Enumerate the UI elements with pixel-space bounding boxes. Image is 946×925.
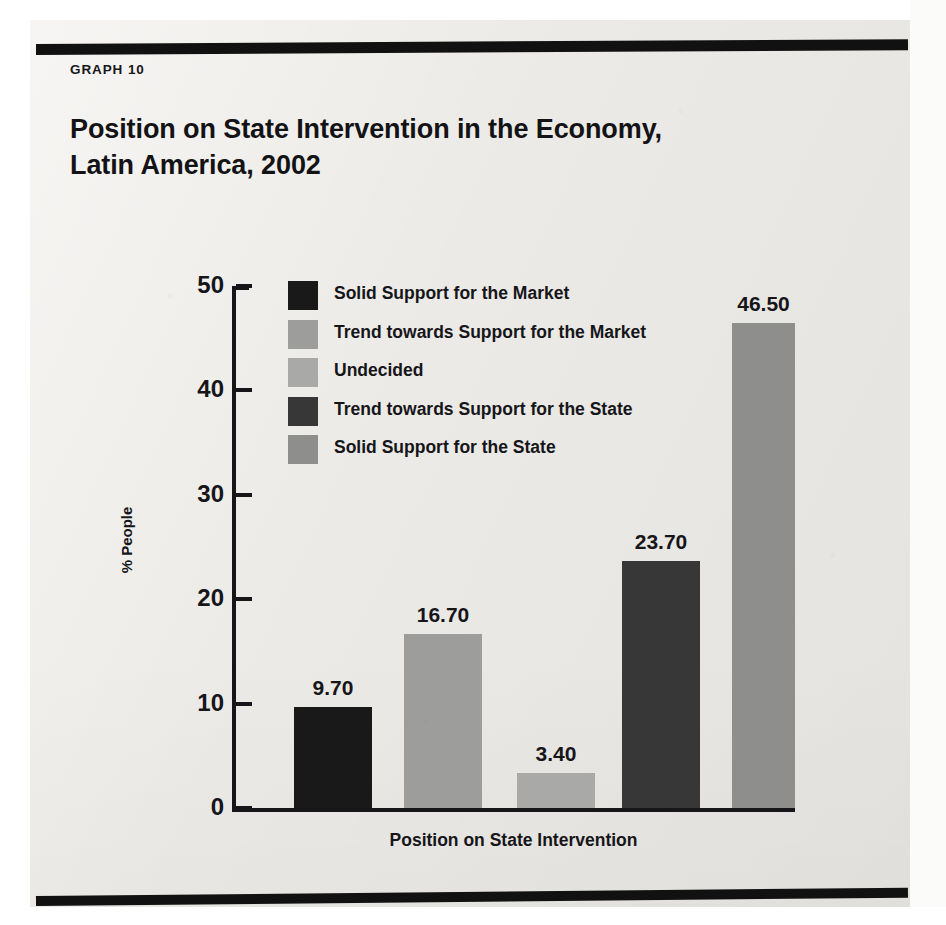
paper-margin-right [910, 0, 946, 925]
legend-item-label: Solid Support for the State [334, 437, 556, 458]
bar[interactable] [622, 561, 700, 808]
legend-item-label: Trend towards Support for the State [334, 399, 633, 420]
y-axis-tick-label: 30 [197, 480, 224, 508]
legend-item[interactable]: Trend towards Support for the State [288, 397, 718, 436]
legend-item-label: Trend towards Support for the Market [334, 322, 646, 343]
bar-value-label: 9.70 [313, 676, 354, 700]
legend-swatch-icon [288, 397, 318, 426]
bar-slot: 46.50 [732, 288, 795, 808]
legend-item-label: Undecided [334, 360, 423, 381]
graph-number-label: GRAPH 10 [70, 62, 145, 77]
legend-item[interactable]: Undecided [288, 358, 718, 397]
chart-title: Position on State Intervention in the Ec… [70, 112, 790, 183]
paper-margin-left [0, 0, 30, 925]
legend-item[interactable]: Solid Support for the State [288, 435, 718, 474]
y-axis-tick-label: 10 [197, 689, 224, 717]
scanned-page: GRAPH 10 Position on State Intervention … [0, 0, 946, 925]
bar-value-label: 46.50 [737, 292, 790, 316]
chart-title-line-2: Latin America, 2002 [70, 148, 790, 184]
y-axis-tick-label: 40 [197, 375, 224, 403]
bar[interactable] [294, 707, 372, 808]
bar-value-label: 23.70 [635, 530, 688, 554]
bar[interactable] [732, 323, 795, 808]
paper-margin-bottom [0, 907, 946, 925]
y-axis-title: % People [113, 470, 139, 610]
chart-title-line-1: Position on State Intervention in the Ec… [70, 112, 790, 148]
legend-swatch-icon [288, 358, 318, 387]
x-axis-line [232, 808, 795, 812]
y-axis-tick-label: 50 [197, 271, 224, 299]
bar-value-label: 3.40 [536, 742, 577, 766]
legend-item-label: Solid Support for the Market [334, 283, 569, 304]
legend-item[interactable]: Trend towards Support for the Market [288, 320, 718, 359]
x-axis-title: Position on State Intervention [232, 830, 795, 851]
legend-swatch-icon [288, 281, 318, 310]
y-axis-tick-label: 20 [197, 584, 224, 612]
legend-item[interactable]: Solid Support for the Market [288, 281, 718, 320]
plot-area: 01020304050 9.7016.703.4023.7046.50 Soli… [232, 286, 795, 812]
bar[interactable] [404, 634, 482, 808]
bar-value-label: 16.70 [417, 603, 470, 627]
y-axis-tick-label: 0 [211, 793, 224, 821]
paper-margin-top [0, 0, 946, 20]
legend-swatch-icon [288, 320, 318, 349]
y-axis-title-text: % People [118, 507, 135, 574]
bar[interactable] [517, 773, 595, 808]
chart-legend: Solid Support for the MarketTrend toward… [288, 281, 718, 474]
legend-swatch-icon [288, 435, 318, 464]
